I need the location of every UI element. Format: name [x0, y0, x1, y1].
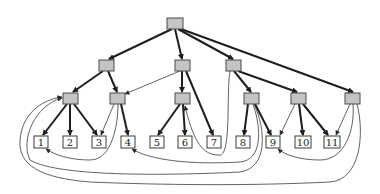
- edge-a-a1: [73, 71, 103, 92]
- node-r3: [345, 93, 360, 104]
- edge-r3-11: [336, 104, 350, 135]
- inner-nodes: [63, 18, 360, 104]
- leaf-4-label: 4: [125, 137, 131, 148]
- edge-c2-11: [303, 104, 328, 135]
- edge-root-a: [109, 29, 172, 59]
- edge-a1-1: [43, 104, 67, 135]
- edge-c2-9: [280, 104, 295, 135]
- node-c: [226, 60, 241, 71]
- tree-diagram: 1 2 3 4 5 6 7 8 9 10 11: [0, 0, 380, 194]
- node-a2: [110, 93, 125, 104]
- leaf-5-label: 5: [154, 137, 160, 148]
- leaf-2-label: 2: [67, 137, 73, 148]
- leaf-1-label: 1: [38, 137, 44, 148]
- back-edge-a2-1: [46, 104, 118, 160]
- node-c2: [291, 93, 306, 104]
- node-c1: [244, 93, 259, 104]
- edge-a-a2: [108, 71, 117, 92]
- leaf-8-label: 8: [240, 137, 246, 148]
- node-b1: [175, 93, 190, 104]
- node-b: [175, 60, 190, 71]
- edge-b1-6: [183, 104, 185, 135]
- edge-a1-3: [74, 104, 97, 135]
- node-root: [167, 18, 183, 29]
- edge-root-b: [175, 29, 182, 59]
- leaf-6-label: 6: [182, 137, 188, 148]
- edge-c2-10: [299, 104, 303, 135]
- leaf-11-label: 11: [326, 137, 339, 148]
- edge-b-a2: [125, 68, 187, 94]
- leaf-3-label: 3: [96, 137, 102, 148]
- leaf-9-label: 9: [270, 137, 276, 148]
- edge-a2-4: [121, 104, 128, 135]
- tree-edges: [43, 29, 353, 135]
- edge-root-r3: [181, 29, 353, 92]
- back-edge-r3-9: [278, 104, 353, 160]
- node-a: [99, 60, 114, 71]
- edge-c1-8: [244, 104, 248, 135]
- edge-a2-3: [101, 104, 114, 135]
- leaf-nodes: 1 2 3 4 5 6 7 8 9 10 11: [34, 136, 340, 148]
- leaf-10-label: 10: [297, 137, 310, 148]
- edge-c-c2: [238, 71, 297, 92]
- back-edge-c1-4: [132, 104, 259, 163]
- edge-b1-5: [158, 104, 180, 135]
- leaf-7-label: 7: [211, 137, 217, 148]
- node-a1: [63, 93, 78, 104]
